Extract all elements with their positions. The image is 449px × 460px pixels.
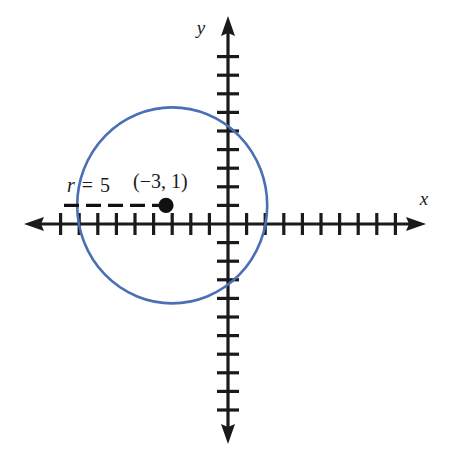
circle-diagram-svg: x [0,0,449,460]
radius-value: 5 [100,174,110,196]
y-axis-down-arrowhead [221,424,235,444]
center-point-dot [158,198,173,213]
center-point-annotation: (−3, 1) [133,170,188,193]
radius-annotation: r=5 [67,174,110,196]
y-axis-group: y [195,16,239,444]
radius-equals: = [82,174,93,196]
x-axis-left-arrowhead [24,217,44,231]
y-axis-label: y [195,17,206,38]
x-axis-label: x [419,188,429,209]
x-axis-right-arrowhead [406,217,426,231]
y-axis-up-arrowhead [221,16,235,36]
coordinate-plane-figure: x [0,0,449,460]
radius-symbol: r [67,174,75,196]
